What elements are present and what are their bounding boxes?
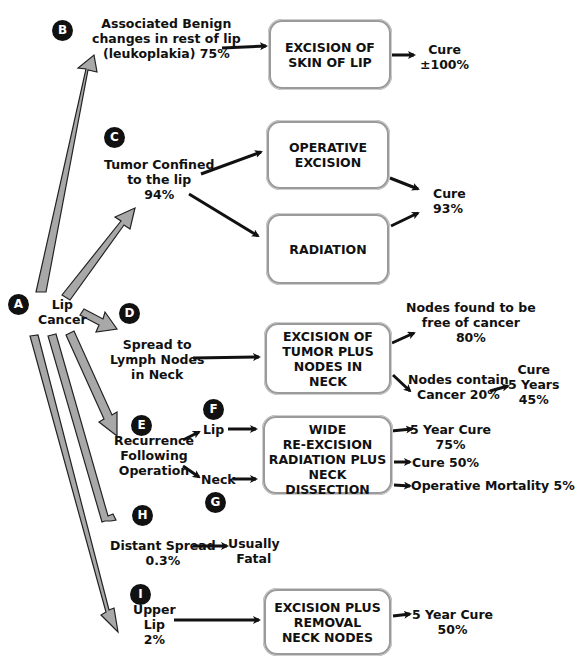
box-line: RADIATION (289, 242, 366, 257)
outcome-line: 50% (412, 622, 493, 637)
branch-D-line: Spread to (110, 337, 204, 352)
outcome-line: free of cancer (406, 315, 536, 330)
branch-E-line: Following (114, 448, 194, 463)
badge-F: F (203, 399, 224, 420)
outcome-line: Nodes contain (408, 372, 509, 387)
outcome-line: ±100% (420, 57, 469, 72)
box-line: OPERATIVE (289, 140, 367, 155)
box-excision-skin-of-lip: EXCISION OF SKIN OF LIP (268, 19, 392, 90)
big-arrow-to-C (62, 208, 135, 300)
badge-D: D (119, 303, 140, 324)
outcome-line: 80% (406, 330, 536, 345)
branch-C-line: Tumor Confined (104, 157, 214, 172)
root-label-line: Lip (38, 297, 87, 312)
box-reexcision-radiation-neck: WIDE RE-EXCISION RADIATION PLUS NECK DIS… (262, 415, 393, 495)
branch-D-label: Spread to Lymph Nodes in Neck (110, 337, 204, 382)
box-radiation-neck-dissection: RADIATION PLUS NECK DISSECTION (265, 452, 390, 497)
root-label-lip-cancer: Lip Cancer (38, 297, 87, 327)
branch-I-line: Lip (133, 617, 176, 632)
branch-E-line: Recurrence (114, 433, 194, 448)
branch-H-line: 0.3% (110, 553, 216, 568)
box-line: EXCISION OF (285, 40, 375, 55)
box-excision-tumor-nodes: EXCISION OF TUMOR PLUS NODES IN NECK (264, 322, 392, 395)
box-radiation: RADIATION (266, 213, 390, 285)
branch-B-line: changes in rest of lip (92, 31, 241, 46)
big-arrow-to-I (30, 335, 118, 632)
badge-H: H (132, 505, 153, 526)
outcome-5yr-cure-75: 5 Year Cure 75% (410, 422, 491, 452)
outcome-cure-93: Cure 93% (433, 186, 466, 216)
outcome-line: Nodes found to be (406, 300, 536, 315)
arrow-operative-to-cure (390, 178, 418, 189)
branch-E-line: Operation (114, 463, 194, 478)
branch-C-line: 94% (104, 187, 214, 202)
branch-H-line: Distant Spread (110, 538, 216, 553)
branch-E-label: Recurrence Following Operation (114, 433, 194, 478)
outcome-line: 45% (508, 392, 559, 407)
box-line: NECK (309, 374, 347, 389)
branch-D-line: in Neck (110, 367, 204, 382)
outcome-cure-50: Cure 50% (412, 455, 479, 470)
box-wide-reexcision: WIDE RE-EXCISION (283, 422, 373, 452)
box-line: REMOVAL (294, 615, 361, 630)
big-arrow-to-B (36, 55, 97, 292)
outcome-line: Fatal (228, 551, 280, 566)
box-excision-removal-neck-nodes: EXCISION PLUS REMOVAL NECK NODES (263, 588, 392, 656)
outcome-line: Cure (508, 362, 559, 377)
box-line: NECK DISSECTION (265, 467, 390, 497)
outcome-line: Cure (420, 42, 469, 57)
root-label-line: Cancer (38, 312, 87, 327)
badge-A: A (8, 294, 29, 315)
outcome-5yr-cure-50: 5 Year Cure 50% (412, 607, 493, 637)
outcome-cure-5yr-45: Cure 5 Years 45% (508, 362, 559, 407)
box-line: NODES IN (294, 359, 362, 374)
box-line: EXCISION OF (283, 329, 373, 344)
outcome-line: Cancer 20% (408, 387, 509, 402)
outcome-line: 5 Year Cure (410, 422, 491, 437)
badge-G: G (205, 492, 226, 513)
branch-G-label: Neck (201, 472, 236, 487)
box-line: SKIN OF LIP (288, 55, 371, 70)
arrow-radiation-to-cure (391, 213, 418, 226)
outcome-line: 93% (433, 201, 466, 216)
outcome-line: Cure (433, 186, 466, 201)
outcome-nodes-contain: Nodes contain Cancer 20% (408, 372, 509, 402)
branch-I-line: 2% (133, 632, 176, 647)
outcome-usually-fatal: Usually Fatal (228, 536, 280, 566)
outcome-cure-100: Cure ±100% (420, 42, 469, 72)
box-line: RE-EXCISION (283, 437, 373, 452)
box-line: NECK NODES (282, 630, 373, 645)
arrow-box-to-5yr75 (391, 429, 412, 431)
outcome-operative-mortality: Operative Mortality 5% (411, 478, 575, 493)
box-line: RADIATION PLUS (265, 452, 390, 467)
badge-B: B (52, 20, 73, 41)
branch-B-line: Associated Benign (92, 16, 241, 31)
box-line: TUMOR PLUS (282, 344, 374, 359)
branch-B-label: Associated Benign changes in rest of lip… (92, 16, 241, 61)
box-operative-excision: OPERATIVE EXCISION (266, 120, 390, 190)
badge-C: C (104, 127, 125, 148)
box-line: EXCISION (295, 155, 361, 170)
branch-I-line: Upper (133, 602, 176, 617)
branch-D-line: Lymph Nodes (110, 352, 204, 367)
arrow-box-to-mortality (394, 485, 410, 486)
box-line: EXCISION PLUS (274, 600, 380, 615)
box-line: WIDE (283, 422, 373, 437)
branch-H-label: Distant Spread 0.3% (110, 538, 216, 568)
branch-B-line: (leukoplakia) 75% (92, 46, 241, 61)
branch-F-label: Lip (203, 422, 224, 437)
outcome-nodes-free: Nodes found to be free of cancer 80% (406, 300, 536, 345)
outcome-line: 5 Years (508, 377, 559, 392)
outcome-line: Usually (228, 536, 280, 551)
arrow-box-to-5yr50 (393, 614, 410, 616)
outcome-line: 75% (410, 437, 491, 452)
branch-I-label: Upper Lip 2% (133, 602, 176, 647)
outcome-line: 5 Year Cure (412, 607, 493, 622)
branch-C-label: Tumor Confined to the lip 94% (104, 157, 214, 202)
branch-C-line: to the lip (104, 172, 214, 187)
